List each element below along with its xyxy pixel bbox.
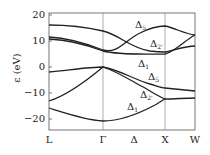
label-delta2p-low: Δ2' [140,89,153,101]
x-tick-gamma: Γ [100,134,107,145]
y-tick-0: 0 [39,61,45,72]
x-tick-L: L [46,134,53,145]
plot-frame [49,13,195,130]
y-tick-20: 20 [32,9,45,20]
label-delta2p-top: Δ2' [150,38,163,50]
band-structure-diagram: 20 10 0 −10 −20 ε (eV) L Γ Δ X W Δ5 Δ2' … [0,0,210,155]
label-delta5-mid: Δ5 [148,71,159,83]
y-tick-10: 10 [32,35,45,46]
x-tick-delta: Δ [130,134,137,145]
x-tick-X: X [161,134,169,145]
y-axis-label: ε (eV) [11,53,22,82]
y-tick-minus20: −20 [24,113,45,124]
x-tick-W: W [190,134,201,145]
y-tick-minus10: −10 [24,87,45,98]
y-tick-marks [49,15,52,119]
label-delta5-top: Δ5 [135,19,146,31]
label-delta1-low: Δ1 [127,101,138,113]
label-delta1-mid: Δ1 [138,58,149,70]
bands [49,25,195,121]
